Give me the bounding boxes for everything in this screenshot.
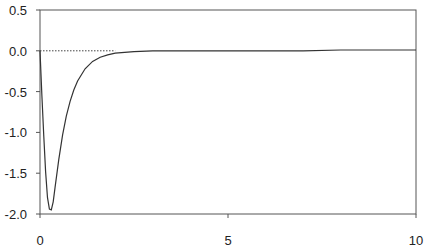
x-tick-label: 5 <box>224 233 231 248</box>
y-axis: 0.50.0-0.5-1.0-1.5-2.0 <box>5 3 40 222</box>
y-tick-label: -1.5 <box>5 166 27 181</box>
x-tick-label: 0 <box>36 233 43 248</box>
y-tick-label: 0.0 <box>9 44 27 59</box>
x-tick-label: 10 <box>409 233 423 248</box>
y-tick-label: -1.0 <box>5 125 27 140</box>
y-tick-label: -2.0 <box>5 207 27 222</box>
data-series-line <box>40 50 416 210</box>
line-chart: 0.50.0-0.5-1.0-1.5-2.0 0510 <box>0 0 425 249</box>
plot-border <box>40 10 416 214</box>
x-axis: 0510 <box>36 214 423 248</box>
y-tick-label: -0.5 <box>5 85 27 100</box>
y-tick-label: 0.5 <box>9 3 27 18</box>
plot-frame <box>40 10 416 214</box>
